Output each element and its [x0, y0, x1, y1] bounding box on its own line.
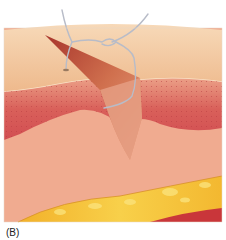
- figure-label: (B): [6, 227, 19, 239]
- skin-suture-illustration: [0, 0, 226, 225]
- suture-entry-point: [63, 69, 69, 71]
